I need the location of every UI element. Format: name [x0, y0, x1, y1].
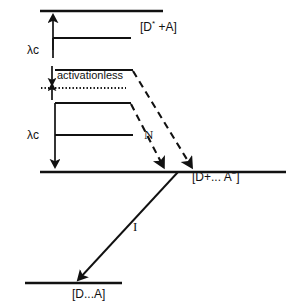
- nonradiative-arrows: [131, 71, 191, 166]
- radiative-arrow-group: [79, 172, 178, 279]
- ground-state-label: [D...A]: [72, 288, 105, 300]
- nonradiative-label: N: [144, 128, 153, 141]
- energy-level-diagram: [D* +A] λc activationless λc N [D+... A−…: [0, 0, 291, 306]
- activationless-label: activationless: [57, 70, 123, 81]
- nonradiative-outer-arrow: [133, 71, 191, 166]
- charge-separated-label: [D+... A−]: [192, 170, 240, 183]
- lambda-c-lower-label: λc: [27, 129, 39, 141]
- lambda-c-upper-label: λc: [27, 44, 39, 56]
- charge-separated-close: ]: [236, 170, 239, 184]
- energy-levels: [25, 11, 286, 283]
- radiative-label: I: [133, 220, 137, 233]
- excited-state-label: [D* +A]: [140, 20, 177, 33]
- charge-separated-text: [D+... A: [192, 170, 232, 184]
- radiative-decay-arrow: [79, 172, 178, 279]
- diagram-canvas: [0, 0, 291, 306]
- excited-state-text: [D: [140, 20, 152, 34]
- excited-state-rest: +A]: [155, 20, 177, 34]
